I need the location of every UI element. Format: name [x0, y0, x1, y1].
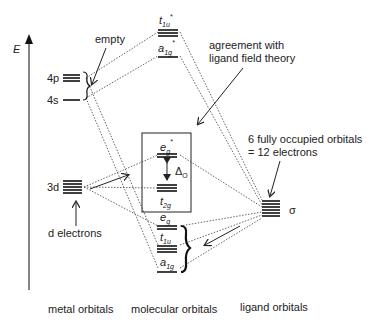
axis-arrow-icon: [25, 34, 33, 44]
molecular-orbitals: t1u* a1g* eg* ΔO t2g eg t1u a1g: [142, 13, 191, 272]
ligand-label-sigma: σ: [289, 204, 296, 216]
delta-o-label: ΔO: [175, 165, 188, 179]
energy-label: E: [13, 43, 21, 55]
empty-arrow-icon: [92, 48, 106, 84]
annotation-occupied-line2: = 12 electrons: [248, 146, 318, 158]
column-label-molecular: molecular orbitals: [131, 303, 218, 315]
orbital-label-3d: 3d: [47, 181, 59, 193]
annotation-occupied-line1: 6 fully occupied orbitals: [248, 133, 363, 145]
correlation-lines: [84, 32, 262, 268]
energy-axis: E: [13, 34, 33, 290]
orbital-label-4s: 4s: [47, 94, 59, 106]
annotation-d-electrons: d electrons: [48, 227, 102, 239]
annotation-agreement-line2: ligand field theory: [209, 52, 296, 64]
orbital-label-4p: 4p: [47, 72, 59, 84]
mo-label-t2g: t2g: [160, 195, 171, 210]
mo-label-a1g-star: a1g*: [158, 39, 175, 57]
ligand-orbitals: σ: [262, 201, 296, 216]
sigma-to-bonding-arrow-icon: [205, 226, 240, 245]
occupied-arrow-icon: [270, 161, 280, 196]
column-label-metal: metal orbitals: [48, 303, 114, 315]
annotation-empty: empty: [95, 33, 125, 45]
mo-label-a1g: a1g: [160, 256, 174, 271]
mo-label-eg: eg: [160, 211, 170, 226]
mo-label-t1u-star: t1u*: [159, 13, 173, 28]
mo-diagram: E 4p 4s 3d empty: [0, 0, 378, 333]
mo-label-t1u: t1u: [160, 231, 171, 245]
column-label-ligand: ligand orbitals: [240, 301, 308, 313]
metal-orbitals: 4p 4s 3d: [47, 72, 90, 193]
annotation-agreement-line1: agreement with: [209, 39, 284, 51]
agreement-arrow-icon: [198, 68, 243, 124]
bonding-brace: [181, 226, 190, 272]
